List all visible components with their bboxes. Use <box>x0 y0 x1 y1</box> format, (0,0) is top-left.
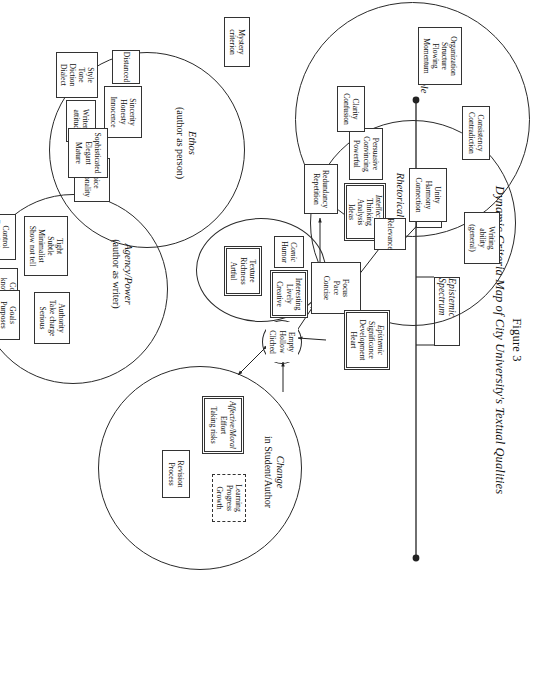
node-text: RedundancyRepetition <box>312 170 331 208</box>
node-line: Learning <box>234 484 243 511</box>
node-line: Process <box>167 460 176 487</box>
node-line: Mature <box>74 133 83 174</box>
label-text: Agency/Power <box>123 243 134 304</box>
node-line: Effort <box>218 401 227 449</box>
node-organization: OrganizationStructureFlowingMomentum <box>418 27 462 85</box>
node-line: Convincing <box>361 136 370 171</box>
node-line: Hollow <box>277 330 286 354</box>
node-line: Take charge <box>47 300 56 337</box>
node-line: Mystery <box>237 29 246 55</box>
node-line: Taking risks <box>209 401 218 449</box>
node-text: ControlBoundaries <box>0 220 10 255</box>
node-text: Affective/MoralEffortTaking risks <box>209 401 237 449</box>
node-line: Texture <box>248 257 257 284</box>
circle-change-label: Change in Student/Author <box>263 412 286 532</box>
node-line: Purposes <box>0 300 8 330</box>
node-learning: LearningProgressGrowth <box>212 474 246 522</box>
node-text: Writingability(general) <box>468 224 496 251</box>
node-text: Mysterycriterion <box>228 29 247 55</box>
node-line: Tone <box>77 64 86 87</box>
node-line: Innocence <box>109 96 118 127</box>
node-line: Control <box>1 220 10 255</box>
node-text: TextureRichnessArtful <box>229 257 257 284</box>
node-line: Analysis <box>356 195 365 230</box>
label-sub: in Student/Author <box>263 412 274 532</box>
node-line: Writing <box>487 224 496 251</box>
node-text: EmptyHollowCliched <box>268 330 296 354</box>
label-sub: (author as writer) <box>111 214 122 334</box>
node-line: Organization <box>449 36 458 76</box>
node-text: RevisionProcess <box>167 460 186 487</box>
node-line: (general) <box>468 224 477 251</box>
node-redundancy: RedundancyRepetition <box>304 164 338 214</box>
node-control: ControlBoundaries <box>0 214 16 260</box>
node-line: Powerful <box>352 136 361 171</box>
node-line: Show not tell <box>28 226 37 267</box>
node-line: Progress <box>224 484 233 511</box>
node-text: EpistemicSignificanceDevelopmentHeart <box>349 320 386 361</box>
node-line: Unity <box>433 177 442 212</box>
node-line: Clarity <box>351 93 360 125</box>
node-text: ClarityConfusion <box>342 93 361 125</box>
axis-endpoint-right <box>413 555 420 562</box>
node-authority: AuthorityTake chargeSerious <box>34 292 70 344</box>
node-line: Sincerity <box>128 96 137 127</box>
node-text: PersuasiveConvincingPowerful <box>352 136 380 171</box>
diagram-page: Figure 3 Dynamic Criteria Map of City Un… <box>0 0 538 680</box>
node-line: Harmony <box>423 177 432 212</box>
node-line: Distanced <box>121 52 130 82</box>
epistemic-empty-arrow <box>298 338 326 340</box>
node-line: Subtle <box>46 226 55 267</box>
node-line: Goals <box>8 300 17 330</box>
node-sophisticated: SophisticatedElegantMature <box>68 128 108 178</box>
node-line: Connection <box>414 177 423 212</box>
node-interesting: InterestingLivelyCreative <box>270 270 308 318</box>
node-line: Boundaries <box>0 220 1 255</box>
node-text: FocusPaceConcise <box>322 276 350 300</box>
node-text: SophisticatedElegantMature <box>74 133 102 174</box>
node-line: Authority <box>57 300 66 337</box>
node-text: InterestingLivelyCreative <box>275 278 303 310</box>
node-line: Richness <box>238 257 247 284</box>
label-text: Change <box>275 456 286 489</box>
node-affective: Affective/MoralEffortTaking risks <box>202 396 244 454</box>
node-line: Growth <box>215 484 224 511</box>
node-writing-ability: Writingability(general) <box>464 212 500 264</box>
node-goals: GoalsPurposesIntentions <box>0 290 20 340</box>
node-line: Relevance <box>385 218 394 250</box>
node-text: SincerityHonestyInnocence <box>109 96 137 127</box>
node-line: Cliched <box>268 330 277 354</box>
label-text: Ethos <box>187 131 198 155</box>
node-text: OrganizationStructureFlowingMomentum <box>422 36 459 76</box>
node-tight: TightSubtleMinimalistShow not tell <box>24 216 68 276</box>
node-text: TightSubtleMinimalistShow not tell <box>28 226 65 267</box>
figure-canvas: Figure 3 Dynamic Criteria Map of City Un… <box>0 0 538 680</box>
node-line: Structure <box>440 36 449 76</box>
node-line: Heart <box>349 320 358 361</box>
node-line: Tight <box>55 226 64 267</box>
circle-ethos-label: Ethos (author as person) <box>175 88 198 198</box>
node-line: Concise <box>322 276 331 300</box>
node-text: GoalsPurposesIntentions <box>0 300 17 330</box>
node-text: UnityHarmonyConnection <box>414 177 442 212</box>
node-line: Pace <box>331 276 340 300</box>
node-line: Style <box>86 64 95 87</box>
node-line: Humor <box>280 241 289 263</box>
node-line: Momentum <box>422 36 431 76</box>
label-sub: (author as person) <box>175 88 186 198</box>
node-texture: TextureRichnessArtful <box>224 246 262 296</box>
node-line: Elegant <box>83 133 92 174</box>
node-line: Persuasive <box>371 136 380 171</box>
node-line: Sophisticated <box>93 133 102 174</box>
node-revision: RevisionProcess <box>162 450 190 498</box>
node-focus: FocusPaceConcise <box>311 262 361 314</box>
node-line: Development <box>358 320 367 361</box>
node-line: Consistency <box>476 112 485 154</box>
node-epistemic-core: EpistemicSignificanceDevelopmentHeart <box>344 310 390 370</box>
node-line: Focus <box>341 276 350 300</box>
node-text: ConsistencyContradiction <box>467 112 486 154</box>
node-persuasive: PersuasiveConvincingPowerful <box>349 128 383 180</box>
node-line: Revision <box>176 460 185 487</box>
node-line: Dialect <box>59 64 68 87</box>
node-line: Comic <box>289 241 298 263</box>
